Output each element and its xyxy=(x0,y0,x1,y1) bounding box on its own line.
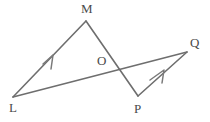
vertex-label-M: M xyxy=(81,1,93,16)
vertex-label-P: P xyxy=(134,101,141,116)
parallel-mark-pq-arrow-icon xyxy=(150,70,164,83)
vertex-label-Q: Q xyxy=(190,35,200,50)
geometry-canvas: M O Q L P xyxy=(0,0,210,122)
parallel-mark-lm-arrow-icon xyxy=(43,55,53,69)
segment-MP xyxy=(86,21,138,96)
vertex-label-L: L xyxy=(9,100,17,115)
geometry-figure: M O Q L P xyxy=(0,0,210,122)
vertex-label-O: O xyxy=(97,53,106,68)
